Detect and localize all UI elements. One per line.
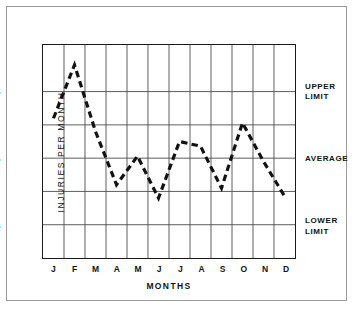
annotation-lower-limit: LOWER LIMIT [305,216,338,236]
y-axis-tick-25: 25 [0,155,1,164]
x-axis-tick-2: M [92,264,100,274]
x-axis-tick-7: A [198,264,205,274]
injuries-per-month-series [43,45,295,258]
y-axis-tick-35: 35 [0,88,1,97]
x-axis-tick-5: J [157,264,162,274]
y-axis-label: INJURIES PER MONTH [56,91,66,212]
annotation-upper-limit: UPPER LIMIT [305,82,336,102]
x-axis-tick-3: A [114,264,121,274]
figure-frame: INJURIES PER MONTH 352515 JFMAMJJASOND M… [6,6,347,301]
x-axis-tick-0: J [51,264,56,274]
x-axis-tick-4: M [134,264,142,274]
x-axis-tick-10: N [262,264,269,274]
x-axis-tick-9: O [241,264,248,274]
x-axis-tick-6: J [178,264,183,274]
annotation-average: AVERAGE [305,154,348,164]
y-axis-tick-15: 15 [0,222,1,231]
x-axis-label: MONTHS [146,281,191,291]
x-axis-tick-8: S [220,264,226,274]
x-axis-tick-1: F [72,264,78,274]
plot-area: INJURIES PER MONTH 352515 JFMAMJJASOND M… [42,44,296,259]
x-axis-tick-11: D [283,264,290,274]
